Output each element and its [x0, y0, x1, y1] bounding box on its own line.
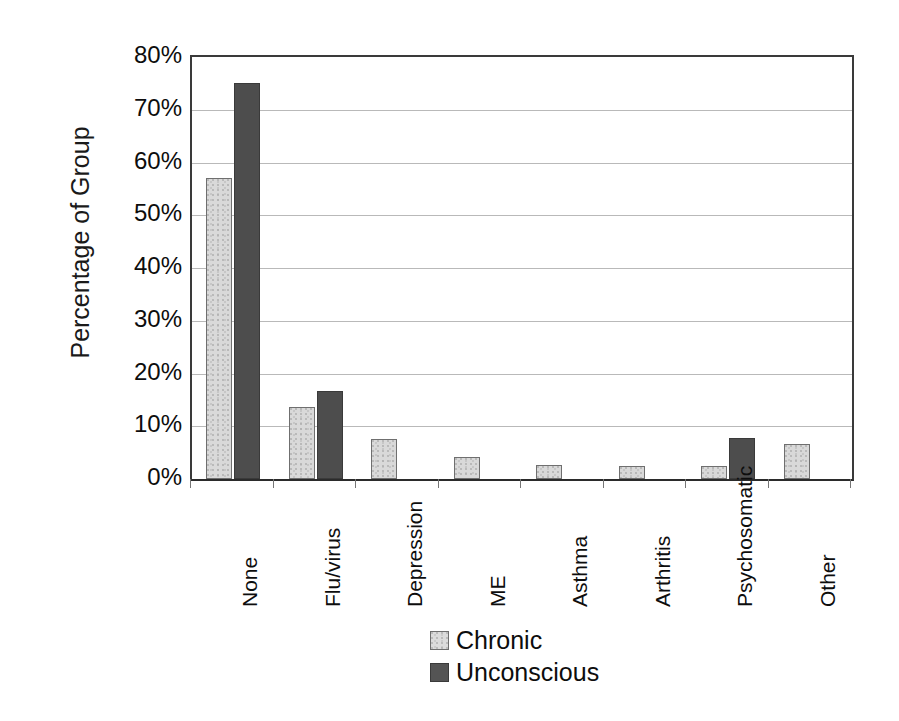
legend-label: Chronic — [456, 628, 542, 653]
x-axis-label: Depression — [404, 501, 425, 607]
bar-chronic — [454, 457, 480, 479]
x-axis-label: Flu/virus — [322, 528, 343, 607]
bar-unconscious — [234, 83, 260, 479]
x-axis-tick — [273, 479, 274, 488]
bar-group — [522, 57, 605, 479]
bar-chart-figure: Percentage of Group 80%70%60%50%40%30%20… — [0, 0, 899, 721]
y-axis-tick-label: 70% — [100, 96, 182, 120]
x-axis-label: Other — [817, 554, 838, 607]
bar-group — [275, 57, 358, 479]
bar-chronic — [536, 465, 562, 479]
bar-group — [687, 57, 770, 479]
x-axis-tick — [438, 479, 439, 488]
y-axis-tick-label: 30% — [100, 307, 182, 331]
bars-layer — [192, 57, 852, 479]
x-axis-tick — [520, 479, 521, 488]
x-axis-label: ME — [487, 576, 508, 608]
x-axis-tick — [355, 479, 356, 488]
y-axis-tick-label: 40% — [100, 254, 182, 278]
x-axis-tick — [850, 479, 851, 488]
y-axis-tick-label: 80% — [100, 43, 182, 67]
plot-area — [190, 55, 854, 481]
x-axis-label: Asthma — [569, 536, 590, 607]
y-axis-tick-label: 50% — [100, 201, 182, 225]
x-axis-tick — [768, 479, 769, 488]
bar-chronic — [289, 407, 315, 479]
bar-chronic — [206, 178, 232, 479]
x-axis-label: Psychosomatic — [734, 466, 755, 607]
x-axis-category-labels: NoneFlu/virusDepressionMEAsthmaArthritis… — [190, 489, 854, 614]
y-axis-tick-label: 20% — [100, 360, 182, 384]
bar-group — [770, 57, 853, 479]
bar-group — [192, 57, 275, 479]
x-axis-label: None — [239, 557, 260, 607]
y-axis-title: Percentage of Group — [66, 93, 95, 393]
x-axis-tick — [190, 479, 191, 488]
y-axis-tick-label: 60% — [100, 149, 182, 173]
bar-chronic — [784, 444, 810, 479]
bar-chronic — [619, 466, 645, 479]
bar-unconscious — [317, 391, 343, 479]
y-axis-tick-label: 0% — [100, 465, 182, 489]
legend-item: Chronic — [430, 628, 599, 653]
bar-group — [357, 57, 440, 479]
x-axis-label: Arthritis — [652, 536, 673, 607]
light-gray-swatch-icon — [430, 631, 449, 650]
y-axis-tick-labels: 80%70%60%50%40%30%20%10%0% — [100, 40, 182, 490]
chart-legend: ChronicUnconscious — [430, 628, 599, 685]
y-axis-tick-label: 10% — [100, 412, 182, 436]
x-axis-tick — [603, 479, 604, 488]
bar-group — [440, 57, 523, 479]
legend-label: Unconscious — [456, 660, 599, 685]
x-axis-tick — [685, 479, 686, 488]
dark-gray-swatch-icon — [430, 663, 449, 682]
bar-chronic — [371, 439, 397, 479]
bar-chronic — [701, 466, 727, 479]
bar-group — [605, 57, 688, 479]
legend-item: Unconscious — [430, 660, 599, 685]
